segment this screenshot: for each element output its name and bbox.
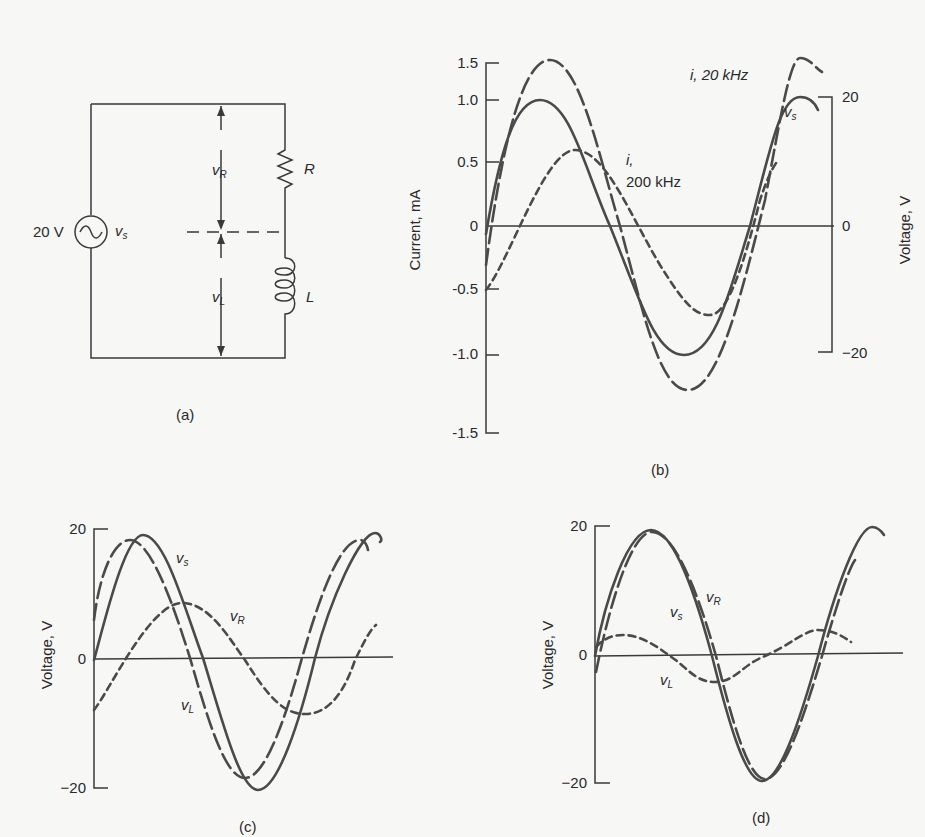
d-label-vs: vs bbox=[670, 603, 683, 622]
d-label-vr: vR bbox=[706, 588, 721, 607]
d-y-axis bbox=[595, 526, 610, 783]
panel-b-chart: 1.5 1.0 0.5 0 -0.5 -1.0 -1.5 20 0 −20 Cu… bbox=[406, 54, 913, 478]
d-label-vl: vL bbox=[660, 671, 673, 690]
inductor-label: L bbox=[306, 288, 314, 305]
svg-text:1.0: 1.0 bbox=[457, 91, 478, 108]
left-tick-labels: 1.5 1.0 0.5 0 -0.5 -1.0 -1.5 bbox=[452, 54, 478, 441]
d-tick-labels: 20 0 −20 bbox=[562, 517, 587, 791]
svg-text:−20: −20 bbox=[562, 774, 587, 791]
panel-d-chart: 20 0 −20 Voltage, V vs vR vL (d) bbox=[539, 517, 903, 826]
caption-d: (d) bbox=[752, 809, 770, 826]
c-tick-labels: 20 0 −20 bbox=[61, 520, 86, 796]
svg-text:0: 0 bbox=[470, 217, 478, 234]
svg-text:0.5: 0.5 bbox=[457, 153, 478, 170]
right-y-axis bbox=[818, 97, 832, 352]
left-axis-label: Current, mA bbox=[406, 190, 423, 271]
caption-c: (c) bbox=[239, 818, 257, 835]
svg-text:20: 20 bbox=[842, 88, 859, 105]
svg-text:−20: −20 bbox=[842, 344, 867, 361]
right-tick-labels: 20 0 −20 bbox=[842, 88, 867, 361]
svg-text:0: 0 bbox=[78, 650, 86, 667]
resistor-icon bbox=[278, 147, 292, 258]
label-i-20khz: i, 20 kHz bbox=[690, 66, 749, 83]
c-label-vr: vR bbox=[230, 607, 245, 626]
label-vs-b: vs bbox=[784, 103, 797, 122]
svg-text:-0.5: -0.5 bbox=[452, 280, 478, 297]
bottom-wire bbox=[91, 248, 285, 358]
ac-source-icon bbox=[75, 216, 107, 248]
c-label-vl: vL bbox=[181, 696, 194, 715]
svg-text:20: 20 bbox=[69, 520, 86, 537]
c-axis-label: Voltage, V bbox=[38, 621, 55, 689]
panel-a-circuit: 20 V vs vR vL R L (a) bbox=[33, 104, 315, 423]
svg-text:1.5: 1.5 bbox=[457, 54, 478, 71]
d-axis-label: Voltage, V bbox=[539, 621, 556, 689]
svg-text:0: 0 bbox=[579, 646, 587, 663]
source-vs-label: vs bbox=[115, 222, 128, 241]
svg-text:-1.5: -1.5 bbox=[452, 424, 478, 441]
c-curve-vs bbox=[94, 533, 381, 790]
d-zero-line bbox=[595, 653, 903, 656]
vl-label: vL bbox=[212, 288, 225, 307]
caption-a: (a) bbox=[176, 406, 194, 423]
svg-text:20: 20 bbox=[570, 517, 587, 534]
inductor-icon bbox=[275, 258, 295, 330]
panel-c-chart: 20 0 −20 Voltage, V vs vR vL (c) bbox=[38, 520, 393, 835]
resistor-label: R bbox=[304, 160, 315, 177]
figure-canvas: .ln{stroke:#3a3a3a;stroke-width:1.5;fill… bbox=[0, 0, 925, 837]
top-wire bbox=[91, 104, 285, 147]
curve-i-20khz bbox=[486, 58, 822, 390]
svg-text:0: 0 bbox=[842, 217, 850, 234]
caption-b: (b) bbox=[651, 461, 669, 478]
c-label-vs: vs bbox=[176, 549, 189, 568]
svg-text:−20: −20 bbox=[61, 779, 86, 796]
voltage-arrows bbox=[187, 106, 280, 356]
label-i-200khz-a: i, bbox=[626, 151, 634, 168]
svg-text:-1.0: -1.0 bbox=[452, 345, 478, 362]
vr-label: vR bbox=[212, 161, 227, 180]
source-value-label: 20 V bbox=[33, 223, 64, 240]
label-i-200khz-b: 200 kHz bbox=[626, 173, 681, 190]
right-axis-label: Voltage, V bbox=[896, 196, 913, 264]
